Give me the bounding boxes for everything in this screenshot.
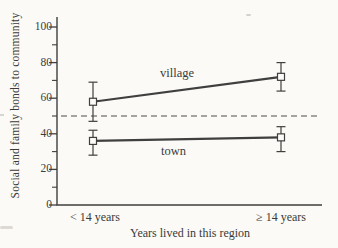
- y-tick-label: 60: [20, 91, 52, 103]
- series-label-town: town: [161, 144, 186, 159]
- x-tick-label-lt-14-years: < 14 years: [53, 210, 137, 225]
- series-label-village: village: [160, 66, 194, 81]
- y-tick-label: 0: [20, 198, 52, 210]
- marker-open-square-town: [278, 134, 285, 141]
- marker-open-square-village: [278, 73, 285, 80]
- y-tick-label: 100: [20, 20, 52, 32]
- y-axis-title: Social and family bonds to community: [9, 6, 24, 206]
- y-tick-label: 40: [20, 127, 52, 139]
- marker-open-square-village: [90, 98, 97, 105]
- chart-figure: Social and family bonds to community Yea…: [0, 0, 338, 248]
- x-axis-title: Years lived in this region: [120, 226, 260, 241]
- x-tick-label-ge-14-years: ≥ 14 years: [239, 210, 323, 225]
- series-line-town: [93, 137, 281, 141]
- y-tick-label: 80: [20, 56, 52, 68]
- axes-lines: [57, 17, 322, 205]
- y-tick-label: 20: [20, 162, 52, 174]
- marker-open-square-town: [90, 137, 97, 144]
